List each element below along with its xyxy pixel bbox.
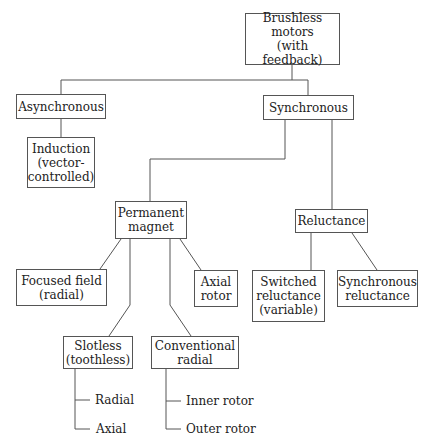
node-slotless: Slotless (toothless) [63, 336, 133, 369]
leaf-slotless-radial: Radial [95, 393, 134, 407]
connector-pm-focused [100, 239, 121, 269]
node-brushless-motors: Brushless motors (with feedback) [245, 13, 340, 65]
node-synchronous: Synchronous [263, 95, 354, 120]
node-asynchronous: Asynchronous [16, 94, 106, 119]
node-permanent-magnet: Permanent magnet [115, 201, 187, 239]
node-switched-reluctance: Switched reluctance (variable) [252, 270, 325, 322]
leaf-conventional-outer-rotor: Outer rotor [186, 422, 256, 436]
node-induction: Induction (vector- controlled) [27, 137, 95, 188]
node-focused-field: Focused field (radial) [16, 269, 107, 306]
leaf-slotless-axial: Axial [96, 422, 126, 436]
connector-pm-conventional [170, 239, 191, 336]
connector-level1-bar [61, 80, 308, 95]
leaf-conventional-inner-rotor: Inner rotor [186, 394, 254, 408]
connector-slotless-tree [75, 369, 90, 429]
node-conventional-radial: Conventional radial [151, 336, 239, 369]
node-synchronous-reluctance: Synchronous reluctance [337, 270, 418, 307]
connector-pm-slotless [109, 239, 130, 336]
connector-rel-syncrel [352, 233, 377, 270]
connector-pm-axial [180, 239, 201, 270]
node-axial-rotor: Axial rotor [194, 270, 238, 307]
connector-sync-pm [150, 120, 285, 201]
connector-conventional-tree [166, 369, 181, 429]
node-reluctance: Reluctance [295, 209, 368, 233]
